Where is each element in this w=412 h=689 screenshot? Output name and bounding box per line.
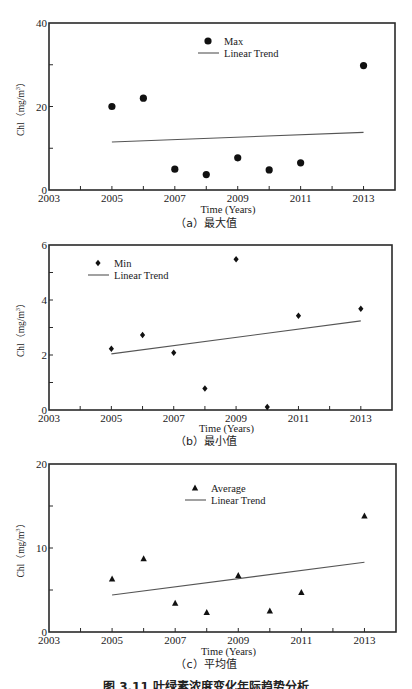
data-point: [361, 512, 367, 518]
data-point: [266, 166, 273, 173]
x-tick-label: 2013: [353, 634, 376, 646]
data-point: [140, 95, 147, 102]
data-point: [140, 332, 145, 338]
y-tick-label: 10: [36, 542, 48, 554]
x-tick-label: 2009: [227, 634, 250, 646]
plot-frame: [49, 23, 395, 190]
circle-marker-icon: [204, 37, 211, 44]
data-point: [358, 306, 363, 312]
legend: AverageLinear Trend: [185, 483, 266, 506]
legend-trend-label: Linear Trend: [114, 270, 169, 281]
data-point: [140, 555, 146, 561]
x-tick-label: 2011: [291, 634, 313, 646]
data-point: [360, 62, 367, 69]
legend-trend-label: Linear Trend: [224, 48, 279, 59]
figure-caption: 图 3.11 叶绿素浓度变化年际趋势分析: [0, 680, 412, 689]
x-tick-label: 2005: [100, 412, 123, 424]
chart-max: 20032005200720092011201302040Chl（mg/m3）T…: [0, 0, 412, 215]
data-point: [235, 572, 241, 578]
y-axis-label: Chl（mg/m3）: [14, 77, 26, 136]
plot-frame: [49, 245, 392, 410]
y-tick-label: 4: [42, 294, 48, 306]
data-point: [171, 350, 176, 356]
data-point: [109, 345, 114, 351]
x-tick-label: 2005: [101, 634, 124, 646]
data-point: [234, 154, 241, 161]
y-tick-label: 2: [42, 349, 48, 361]
panel-caption-min: （b）最小值: [0, 432, 412, 448]
y-tick-label: 40: [36, 17, 48, 29]
legend-series-label: Average: [211, 483, 246, 494]
y-tick-label: 0: [42, 404, 48, 416]
x-tick-label: 2013: [350, 412, 373, 424]
linear-trend-line: [112, 562, 364, 595]
data-point: [204, 609, 210, 615]
y-tick-label: 6: [42, 239, 48, 251]
y-axis-label: Chl（mg/m3）: [14, 518, 26, 577]
legend-series-label: Min: [114, 258, 132, 269]
y-tick-label: 0: [42, 626, 48, 638]
panel-caption-average: （c）平均值: [0, 655, 412, 671]
x-tick-label: 2009: [227, 192, 250, 204]
y-tick-label: 20: [36, 101, 48, 113]
x-tick-label: 2011: [288, 412, 310, 424]
chart-panel-min: 2003200520072009201120130246Chl（mg/m3）Ti…: [0, 230, 412, 460]
data-point: [203, 171, 210, 178]
y-tick-label: 0: [42, 184, 48, 196]
linear-trend-line: [112, 132, 364, 142]
chart-average: 20032005200720092011201301020Chl（mg/m3）T…: [0, 450, 412, 665]
data-point: [297, 159, 304, 166]
chart-panel-average: 20032005200720092011201301020Chl（mg/m3）T…: [0, 450, 412, 689]
data-point: [298, 589, 304, 595]
chart-min: 2003200520072009201120130246Chl（mg/m3）Ti…: [0, 230, 412, 445]
data-point: [172, 600, 178, 606]
x-tick-label: 2013: [353, 192, 376, 204]
x-tick-label: 2011: [290, 192, 312, 204]
x-tick-label: 2007: [164, 192, 187, 204]
linear-trend-line: [111, 321, 360, 354]
legend-trend-label: Linear Trend: [211, 495, 266, 506]
panel-caption-max: （a）最大值: [0, 214, 412, 230]
legend-series-label: Max: [224, 36, 244, 47]
data-point: [171, 166, 178, 173]
legend: MinLinear Trend: [88, 258, 169, 281]
y-tick-label: 20: [36, 458, 48, 470]
y-axis-label: Chl（mg/m3）: [14, 298, 26, 357]
data-point: [109, 575, 115, 581]
data-point: [202, 385, 207, 391]
chart-panel-max: 20032005200720092011201302040Chl（mg/m3）T…: [0, 0, 412, 230]
data-point: [233, 256, 238, 262]
legend: MaxLinear Trend: [198, 36, 279, 59]
diamond-marker-icon: [95, 260, 100, 266]
data-point: [296, 312, 301, 318]
x-tick-label: 2007: [163, 412, 186, 424]
x-tick-label: 2005: [101, 192, 124, 204]
triangle-marker-icon: [192, 484, 198, 490]
data-point: [267, 607, 273, 613]
data-point: [108, 103, 115, 110]
x-tick-label: 2007: [164, 634, 187, 646]
